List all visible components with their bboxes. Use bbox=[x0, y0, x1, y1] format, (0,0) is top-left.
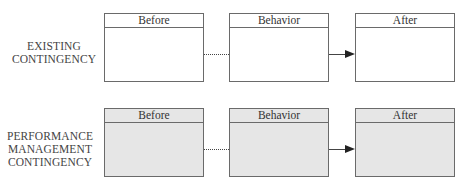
row-label-line: EXISTING bbox=[4, 40, 104, 53]
existing-before-behavior-dotted-connector bbox=[204, 54, 229, 55]
box-title: After bbox=[356, 109, 454, 123]
row-label-performance-management-contingency: PERFORMANCE MANAGEMENT CONTINGENCY bbox=[0, 130, 100, 169]
box-title: Before bbox=[105, 109, 203, 123]
row-label-line: MANAGEMENT bbox=[0, 143, 100, 156]
performance-after-box: After bbox=[355, 108, 455, 177]
row-label-line: CONTINGENCY bbox=[0, 156, 100, 169]
box-title: After bbox=[356, 14, 454, 28]
box-title: Before bbox=[105, 14, 203, 28]
row-label-existing-contingency: EXISTING CONTINGENCY bbox=[4, 40, 104, 66]
existing-before-box: Before bbox=[104, 13, 204, 82]
arrowhead-icon bbox=[345, 50, 355, 58]
existing-behavior-box: Behavior bbox=[229, 13, 329, 82]
row-label-line: PERFORMANCE bbox=[0, 130, 100, 143]
arrowhead-icon bbox=[345, 145, 355, 153]
existing-behavior-after-arrow bbox=[329, 54, 345, 55]
performance-before-behavior-dotted-connector bbox=[204, 149, 229, 150]
existing-after-box: After bbox=[355, 13, 455, 82]
box-title: Behavior bbox=[230, 14, 328, 28]
box-title: Behavior bbox=[230, 109, 328, 123]
performance-behavior-box: Behavior bbox=[229, 108, 329, 177]
row-label-line: CONTINGENCY bbox=[4, 53, 104, 66]
performance-behavior-after-arrow bbox=[329, 149, 345, 150]
performance-before-box: Before bbox=[104, 108, 204, 177]
